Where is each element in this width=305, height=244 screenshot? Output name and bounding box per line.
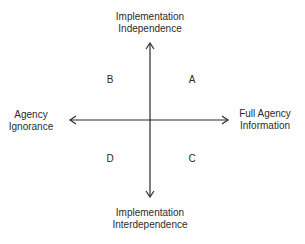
bottom-axis-label: Implementation Interdependence (100, 207, 200, 231)
left-axis-label: Agency Ignorance (0, 109, 62, 133)
top-axis-label: Implementation Independence (100, 11, 200, 35)
quadrant-c-label: C (186, 153, 198, 165)
quadrant-d-label: D (104, 153, 116, 165)
quadrant-a-label: A (186, 74, 198, 86)
right-axis-label: Full Agency Information (233, 108, 297, 132)
quadrant-b-label: B (104, 74, 116, 86)
